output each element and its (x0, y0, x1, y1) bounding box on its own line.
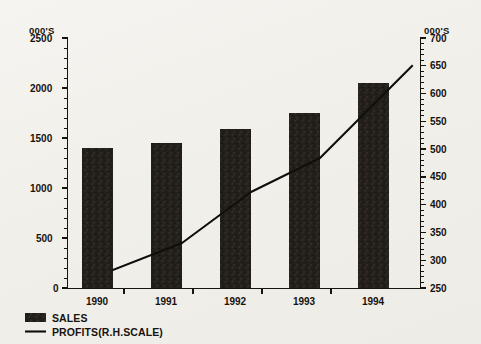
left-axis: 000'S 2500 2000 1500 1000 500 0 (29, 25, 68, 294)
left-tick-label: 2500 (30, 33, 53, 44)
left-axis-ticks: 2500 2000 1500 1000 500 0 (30, 33, 68, 294)
right-tick-label: 550 (430, 116, 447, 127)
legend-label-sales: SALES (52, 312, 88, 324)
right-tick-label: 500 (430, 144, 447, 155)
legend-item-sales[interactable]: SALES (25, 312, 88, 324)
bar-1992 (220, 129, 251, 288)
x-axis-category-label: 1991 (155, 296, 178, 307)
bar-1993 (289, 113, 320, 288)
left-tick-label: 1000 (30, 183, 53, 194)
right-tick-label: 450 (430, 171, 447, 182)
right-axis: 000'S 700 650 600 550 500 450 400 350 (420, 25, 449, 294)
right-tick-label: 350 (430, 227, 447, 238)
x-axis-category-label: 1990 (86, 296, 109, 307)
legend-label-profits: PROFITS(R.H.SCALE) (52, 326, 163, 338)
legend-swatch-sales-texture (25, 313, 46, 322)
chart-legend: SALES PROFITS(R.H.SCALE) (25, 312, 163, 338)
bar-series-sales (82, 83, 389, 288)
x-axis-category-label: 1994 (362, 296, 385, 307)
left-tick-label: 500 (36, 233, 53, 244)
right-tick-label: 650 (430, 60, 447, 71)
chart-container: 000'S 2500 2000 1500 1000 500 0 (0, 0, 481, 344)
right-tick-label: 300 (430, 255, 447, 266)
right-tick-label: 700 (430, 33, 447, 44)
right-tick-label: 600 (430, 88, 447, 99)
x-axis-category-label: 1992 (224, 296, 247, 307)
sales-profits-chart: 000'S 2500 2000 1500 1000 500 0 (0, 0, 481, 344)
right-tick-label: 250 (430, 283, 447, 294)
left-tick-label: 0 (53, 283, 59, 294)
x-axis: 1990 1991 1992 1993 1994 (68, 288, 421, 307)
left-tick-label: 1500 (30, 133, 53, 144)
bar-1990 (82, 148, 113, 288)
left-tick-label: 2000 (30, 83, 53, 94)
legend-item-profits[interactable]: PROFITS(R.H.SCALE) (25, 326, 163, 338)
bar-1991 (151, 143, 182, 288)
right-tick-label: 400 (430, 199, 447, 210)
right-axis-ticks: 700 650 600 550 500 450 400 350 300 25 (420, 33, 447, 294)
bar-1994 (358, 83, 389, 288)
x-axis-category-label: 1993 (293, 296, 316, 307)
